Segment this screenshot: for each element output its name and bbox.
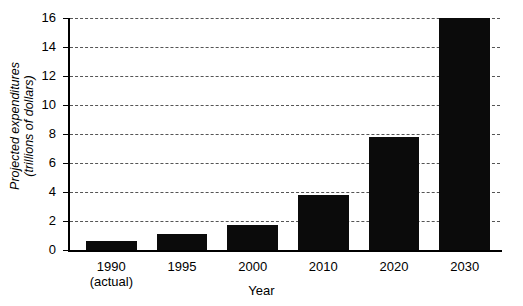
bar xyxy=(369,137,420,250)
x-tick-label-main: 1995 xyxy=(168,259,197,274)
gridline xyxy=(70,221,500,222)
y-tick-label: 8 xyxy=(16,127,56,140)
gridline xyxy=(70,134,500,135)
gridline xyxy=(70,105,500,106)
bar-chart: Projected expenditures (trillions of dol… xyxy=(0,0,523,306)
x-axis-line xyxy=(68,250,502,252)
x-axis-title: Year xyxy=(0,283,523,298)
bar xyxy=(86,241,137,250)
y-tick-label: 2 xyxy=(16,214,56,227)
y-axis-line xyxy=(68,18,70,251)
x-tick-label: 2030 xyxy=(425,259,505,274)
gridline xyxy=(70,192,500,193)
x-tick-label-main: 2000 xyxy=(238,259,267,274)
bar xyxy=(439,18,490,250)
bar xyxy=(157,234,208,250)
x-tick-label: 2020 xyxy=(354,259,434,274)
gridline xyxy=(70,76,500,77)
y-tick-label: 4 xyxy=(16,185,56,198)
plot-area xyxy=(68,18,500,250)
x-tick-label: 1995 xyxy=(142,259,222,274)
x-tick-label-main: 2030 xyxy=(450,259,479,274)
gridline xyxy=(70,18,500,19)
y-tick-label: 0 xyxy=(16,243,56,256)
y-tick-label: 16 xyxy=(16,11,56,24)
y-tick-label: 14 xyxy=(16,40,56,53)
y-tick-label: 10 xyxy=(16,98,56,111)
x-tick-label-main: 2010 xyxy=(309,259,338,274)
y-tick-label: 6 xyxy=(16,156,56,169)
x-tick-label: 2010 xyxy=(283,259,363,274)
bar xyxy=(298,195,349,250)
gridline xyxy=(70,163,500,164)
y-tick-label: 12 xyxy=(16,69,56,82)
x-tick-label-main: 2020 xyxy=(380,259,409,274)
gridline xyxy=(70,47,500,48)
x-tick-label-main: 1990 xyxy=(97,259,126,274)
x-tick-label: 2000 xyxy=(213,259,293,274)
bar xyxy=(227,225,278,250)
